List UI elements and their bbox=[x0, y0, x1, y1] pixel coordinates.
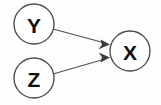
node-y[interactable]: Y bbox=[14, 4, 54, 44]
node-z-label: Z bbox=[28, 68, 41, 91]
edge-z-to-x-line bbox=[53, 59, 105, 74]
edge-y-to-x-arrowhead bbox=[98, 39, 110, 49]
edge-z-to-x[interactable] bbox=[53, 53, 110, 74]
graph-canvas: Y Z X bbox=[0, 0, 161, 105]
node-z[interactable]: Z bbox=[14, 58, 54, 98]
causal-diagram: Y Z X bbox=[0, 0, 161, 105]
edge-y-to-x[interactable] bbox=[53, 29, 110, 49]
node-x[interactable]: X bbox=[110, 31, 150, 71]
edge-y-to-x-line bbox=[53, 29, 105, 43]
edge-z-to-x-arrowhead bbox=[99, 53, 110, 63]
node-x-label: X bbox=[123, 41, 137, 64]
node-y-label: Y bbox=[27, 14, 41, 37]
